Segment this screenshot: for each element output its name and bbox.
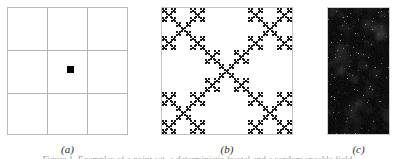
grid-line-vertical-1 xyxy=(47,8,48,134)
fractal-canvas xyxy=(162,8,292,134)
panel-a-caption: (a) xyxy=(7,144,128,155)
panel-c-speckle-noise xyxy=(327,7,390,135)
speckle-noise-canvas xyxy=(328,8,389,134)
panel-a-grid-with-point xyxy=(7,7,128,135)
panel-b-caption: (b) xyxy=(161,144,293,155)
grid-line-horizontal-2 xyxy=(8,93,127,94)
panel-c-caption: (c) xyxy=(327,144,390,155)
figure-root: (a) (b) (c) Figure 1. Examples of a poin… xyxy=(0,0,397,159)
grid-line-vertical-2 xyxy=(87,8,88,134)
panel-b-fractal xyxy=(161,7,293,135)
grid-line-horizontal-1 xyxy=(8,50,127,51)
cropped-figure-caption: Figure 1. Examples of a point set, a det… xyxy=(0,155,397,159)
cropped-figure-caption-text: Figure 1. Examples of a point set, a det… xyxy=(0,155,397,159)
center-point-marker xyxy=(67,66,74,73)
